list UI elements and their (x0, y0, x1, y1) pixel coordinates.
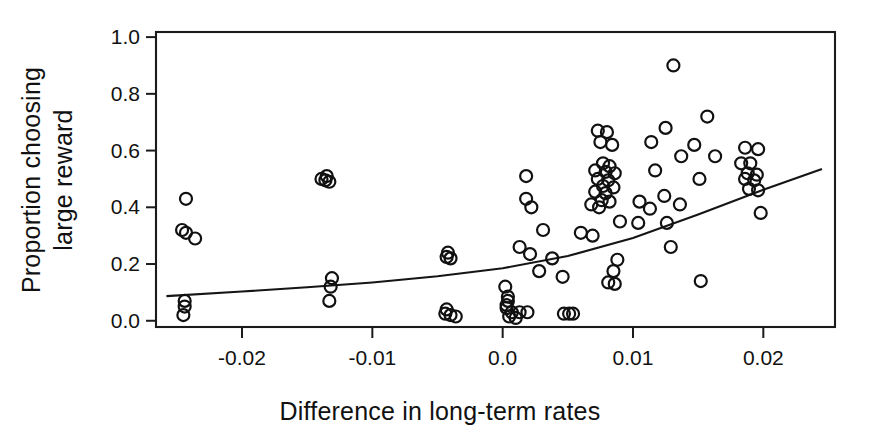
data-point (520, 170, 532, 182)
plot-canvas: 0.00.20.40.60.81.0 -0.02-0.010.00.010.02… (0, 0, 872, 438)
data-point (667, 59, 679, 71)
y-axis-title-line-2: large reward (49, 109, 77, 250)
data-point (521, 306, 533, 318)
data-point (658, 190, 670, 202)
data-point (323, 295, 335, 307)
y-tick-label: 0.2 (111, 252, 140, 275)
data-point (632, 217, 644, 229)
x-tick-label: 0.0 (488, 346, 517, 369)
x-tick-label: -0.01 (348, 346, 396, 369)
x-axis-title: Difference in long-term rates (280, 397, 601, 425)
y-tick-label: 0.0 (111, 309, 140, 332)
data-point (644, 203, 656, 215)
y-tick-label: 0.8 (111, 82, 140, 105)
data-point (177, 309, 189, 321)
data-point (557, 271, 569, 283)
data-point (661, 217, 673, 229)
data-point (593, 201, 605, 213)
data-points-group (176, 59, 767, 323)
data-point (665, 241, 677, 253)
data-point (688, 139, 700, 151)
data-point (739, 142, 751, 154)
x-tick-label: -0.02 (218, 346, 266, 369)
data-point (537, 224, 549, 236)
data-point (752, 143, 764, 155)
y-axis-ticks (146, 37, 156, 321)
data-point (587, 230, 599, 242)
data-point (674, 198, 686, 210)
data-point (607, 265, 619, 277)
data-point (189, 233, 201, 245)
x-axis-ticks (242, 327, 763, 338)
data-point (533, 265, 545, 277)
data-point (709, 150, 721, 162)
data-point (524, 248, 536, 260)
data-point (649, 164, 661, 176)
y-axis-title: Proportion choosing large reward (17, 67, 77, 293)
y-axis-title-line-1: Proportion choosing (17, 67, 45, 293)
scatter-plot-figure: 0.00.20.40.60.81.0 -0.02-0.010.00.010.02… (0, 0, 872, 438)
data-point (701, 111, 713, 123)
data-point (675, 150, 687, 162)
plot-frame (156, 32, 835, 327)
regression-fit-line (166, 169, 822, 296)
x-tick-label: 0.02 (743, 346, 784, 369)
y-tick-label: 0.6 (111, 139, 140, 162)
data-point (575, 227, 587, 239)
data-point (614, 215, 626, 227)
data-point (180, 193, 192, 205)
data-point (645, 136, 657, 148)
data-point (606, 139, 618, 151)
y-axis-tick-labels: 0.00.20.40.60.81.0 (111, 25, 141, 332)
y-tick-label: 1.0 (111, 25, 140, 48)
data-point (594, 136, 606, 148)
y-tick-label: 0.4 (111, 195, 141, 218)
data-point (693, 173, 705, 185)
x-tick-label: 0.01 (613, 346, 654, 369)
data-point (585, 198, 597, 210)
data-point (755, 207, 767, 219)
data-point (695, 275, 707, 287)
x-axis-tick-labels: -0.02-0.010.00.010.02 (218, 346, 784, 369)
data-point (611, 254, 623, 266)
data-point (660, 122, 672, 134)
